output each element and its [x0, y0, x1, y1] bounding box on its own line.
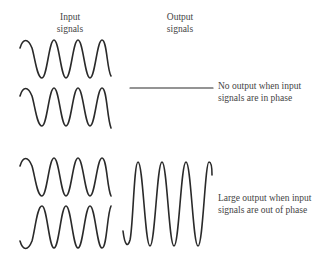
input-wave-3-out-of-phase: [20, 158, 111, 196]
input-wave-4-out-of-phase: [20, 206, 111, 249]
output-large-wave: [123, 162, 212, 246]
input-wave-2-in-phase: [20, 88, 111, 128]
input-wave-1-in-phase: [20, 40, 111, 78]
wave-diagram: [0, 0, 327, 265]
